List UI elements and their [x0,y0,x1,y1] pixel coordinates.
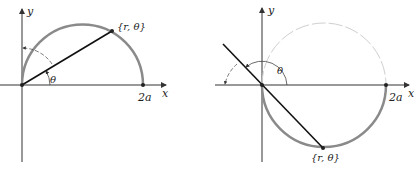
radius-ray [223,44,323,148]
y-axis-label: y [267,4,275,17]
intercept-label: 2a [388,91,403,104]
point-label: {r, θ} [117,21,146,32]
intercept-dot [141,83,145,87]
point-label: {r, θ} [311,152,340,163]
dashed-angle-arc [225,64,237,84]
intercept-dot [384,83,388,87]
origin-dot [260,83,264,87]
radius-ray [22,31,112,85]
angle-label: θ [277,65,283,76]
intercept-label: 2a [137,91,152,104]
point-dot [321,146,325,150]
angle-label: θ [50,74,56,85]
lower-semicircle-curve [262,85,386,147]
x-axis-label: x [408,87,415,100]
y-axis-label: y [26,5,34,18]
polar-circle-diagram: y x {r, θ} θ 2a y x {r, θ} θ 2a [0,0,417,170]
x-axis-label: x [162,87,169,100]
origin-dot [20,83,24,87]
right-panel: y x {r, θ} θ 2a [215,4,415,163]
left-panel: y x {r, θ} θ 2a [0,5,169,162]
point-dot [110,29,114,33]
semicircle-curve [22,25,143,85]
